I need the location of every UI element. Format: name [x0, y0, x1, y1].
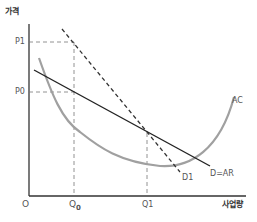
x-axis-label: 사업량 — [222, 201, 243, 209]
d-ar-label: D=AR — [210, 170, 234, 178]
economics-diagram — [0, 0, 257, 222]
q0-label: Q0 — [69, 200, 81, 212]
q1-label: Q1 — [142, 201, 153, 209]
origin-label: O — [22, 200, 29, 209]
q0-label-subscript: 0 — [76, 204, 81, 212]
p0-label: P0 — [15, 88, 25, 96]
d1-label: D1 — [182, 174, 193, 182]
y-axis-label: 가격 — [5, 8, 19, 16]
demand-ar-line — [34, 70, 210, 166]
p1-label: P1 — [15, 38, 25, 46]
ac-curve — [39, 58, 234, 166]
ac-label: AC — [232, 97, 243, 105]
d1-line — [62, 29, 180, 172]
